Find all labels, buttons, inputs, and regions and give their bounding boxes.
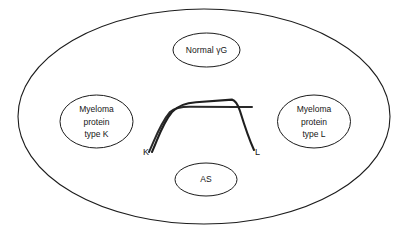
well-label-myeloma-k-line1: Myeloma — [52, 103, 142, 116]
well-label-antiserum: AS — [176, 174, 236, 185]
well-label-myeloma-l-line2: protein — [269, 116, 359, 129]
well-label-myeloma-l: Myeloma protein type L — [269, 103, 359, 141]
arc-label-l: L — [255, 147, 260, 157]
arc-label-k: K — [143, 147, 149, 157]
immunoelectrophoresis-figure: Normal γG Myeloma protein type K Myeloma… — [0, 0, 408, 246]
well-label-myeloma-l-line1: Myeloma — [269, 103, 359, 116]
precipitin-arc-l — [149, 107, 252, 152]
well-label-myeloma-k-line3: type K — [52, 128, 142, 141]
well-label-myeloma-k: Myeloma protein type K — [52, 103, 142, 141]
well-label-normal-gamma-g: Normal γG — [174, 45, 239, 56]
well-label-myeloma-l-line3: type L — [269, 128, 359, 141]
well-label-myeloma-k-line2: protein — [52, 116, 142, 129]
